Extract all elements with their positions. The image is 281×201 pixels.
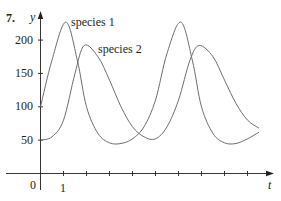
problem-number: 7. [6,12,15,24]
y-tick-label-50: 50 [21,134,33,146]
population-chart [0,0,281,201]
series-label-species-1: species 1 [71,16,115,28]
y-tick-label-200: 200 [15,34,33,46]
y-axis-label: y [30,11,35,23]
series-line-species-2 [41,45,260,140]
y-tick-label-100: 100 [15,100,33,112]
series-lines [41,22,260,144]
series-label-species-2: species 2 [98,43,142,55]
y-tick-label-150: 150 [15,67,33,79]
x-axis-arrow-icon [266,171,274,176]
x-axis-label: t [268,179,271,191]
x-tick-label-1: 1 [60,182,66,194]
y-axis-arrow-icon [38,11,43,19]
x-tick-label-0: 0 [30,179,36,191]
